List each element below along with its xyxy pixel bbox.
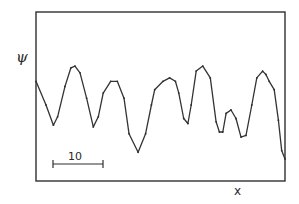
- data-point: [137, 151, 139, 153]
- data-point: [70, 67, 72, 69]
- data-point: [187, 123, 189, 125]
- data-point: [219, 131, 221, 133]
- data-point: [102, 92, 104, 94]
- data-point: [251, 104, 253, 106]
- data-point: [195, 70, 197, 72]
- x-axis-label: x: [234, 184, 241, 198]
- data-point: [86, 97, 88, 99]
- data-point: [92, 126, 94, 128]
- data-point: [235, 118, 237, 120]
- data-point: [128, 133, 130, 135]
- data-point: [256, 77, 258, 79]
- data-point: [154, 89, 156, 91]
- y-axis-label: ψ: [16, 48, 28, 66]
- data-point: [225, 113, 227, 115]
- data-point: [209, 77, 211, 79]
- data-point: [64, 86, 66, 88]
- data-point: [151, 104, 153, 106]
- data-point: [273, 89, 275, 91]
- data-point: [97, 116, 99, 118]
- data-point: [145, 133, 147, 135]
- data-point: [123, 97, 125, 99]
- data-point: [230, 109, 232, 111]
- psi-curve: [36, 66, 285, 159]
- data-point: [245, 135, 247, 137]
- data-point: [53, 124, 55, 126]
- scale-bar-label: 10: [68, 150, 82, 163]
- data-point: [262, 70, 264, 72]
- data-point: [278, 119, 280, 121]
- data-point: [45, 104, 47, 106]
- chart-canvas: [0, 0, 299, 204]
- data-point: [183, 118, 185, 120]
- data-point: [265, 74, 267, 76]
- data-point: [281, 150, 283, 152]
- data-point: [240, 136, 242, 138]
- data-point: [268, 80, 270, 82]
- data-point: [162, 80, 164, 82]
- data-point: [79, 72, 81, 74]
- data-point: [284, 158, 286, 160]
- data-point: [175, 80, 177, 82]
- data-point: [35, 80, 37, 82]
- data-point: [222, 131, 224, 133]
- data-point: [74, 65, 76, 67]
- data-point: [57, 116, 59, 118]
- data-point: [215, 121, 217, 123]
- data-point: [178, 92, 180, 94]
- data-point: [116, 80, 118, 82]
- curve-data-points: [35, 65, 286, 160]
- data-point: [169, 77, 171, 79]
- data-point: [190, 104, 192, 106]
- data-point: [110, 80, 112, 82]
- data-point: [202, 65, 204, 67]
